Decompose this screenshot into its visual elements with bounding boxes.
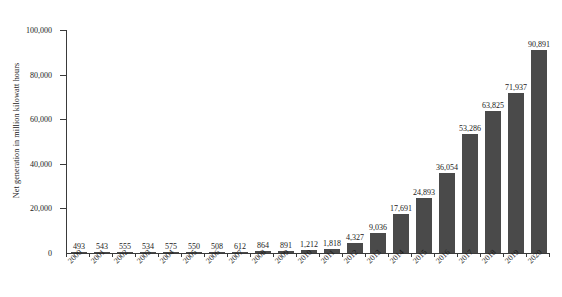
bar[interactable] bbox=[531, 50, 547, 253]
bar-chart: Net generation in million kilowatt hours… bbox=[0, 0, 562, 297]
bar[interactable] bbox=[485, 111, 501, 253]
bar-value-label: 1,212 bbox=[300, 240, 318, 249]
bar-value-label: 90,891 bbox=[528, 40, 550, 49]
bar[interactable] bbox=[508, 93, 524, 253]
bar-value-label: 71,937 bbox=[505, 83, 527, 92]
bar-value-label: 53,286 bbox=[459, 124, 481, 133]
bar[interactable] bbox=[462, 134, 478, 253]
bar-value-label: 4,327 bbox=[346, 233, 364, 242]
bar-value-label: 36,054 bbox=[436, 163, 458, 172]
bar-value-label: 1,818 bbox=[323, 239, 341, 248]
plot-area: 4935435555345755505086128648911,2121,818… bbox=[66, 30, 549, 253]
bar-value-label: 9,036 bbox=[369, 223, 387, 232]
x-axis-tick-mark bbox=[549, 253, 550, 257]
bar[interactable] bbox=[393, 214, 409, 253]
bar[interactable] bbox=[416, 198, 432, 254]
bar-value-label: 63,825 bbox=[482, 101, 504, 110]
bar-value-label: 17,691 bbox=[390, 204, 412, 213]
bar-value-label: 24,893 bbox=[413, 188, 435, 197]
bar[interactable] bbox=[439, 173, 455, 253]
